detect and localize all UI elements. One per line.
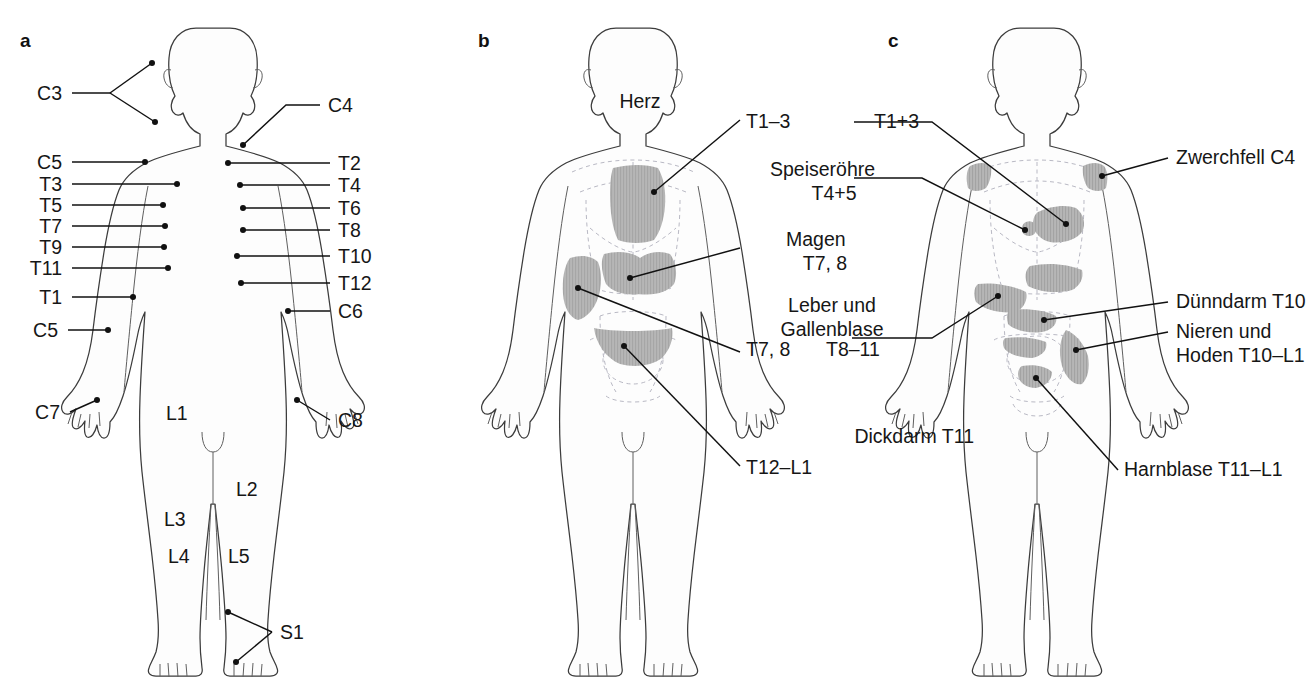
label-duenndarm: Dünndarm T10 xyxy=(1176,290,1306,312)
label-l3: L3 xyxy=(164,508,186,530)
label-t6: T6 xyxy=(338,197,361,219)
label-c3: C3 xyxy=(12,82,62,104)
label-t2: T2 xyxy=(338,152,361,174)
label-t5: T5 xyxy=(12,194,62,216)
label-liver-segment-b: T7, 8 xyxy=(746,338,790,360)
label-harnblase: Harnblase T11–L1 xyxy=(1124,458,1283,480)
label-magen-segment: T7, 8 xyxy=(770,252,880,274)
label-c5-shoulder: C5 xyxy=(12,151,62,173)
label-t11: T11 xyxy=(4,257,62,279)
label-c6: C6 xyxy=(338,300,363,322)
label-t9: T9 xyxy=(12,236,62,258)
label-t8: T8 xyxy=(338,219,361,241)
label-t1: T1 xyxy=(12,286,62,308)
label-magen: Magen xyxy=(786,228,846,250)
label-t7: T7 xyxy=(12,215,62,237)
label-c7: C7 xyxy=(10,401,60,423)
label-speiseroehre: Speiseröhre xyxy=(770,158,875,180)
label-t4: T4 xyxy=(338,174,361,196)
label-c5-arm: C5 xyxy=(8,319,58,341)
label-c8: C8 xyxy=(338,409,363,431)
label-l2: L2 xyxy=(236,478,258,500)
label-colon-segment-b: T12–L1 xyxy=(746,456,812,478)
label-t3: T3 xyxy=(12,173,62,195)
label-dickdarm: Dickdarm T11 xyxy=(730,425,974,447)
label-l4: L5 xyxy=(228,545,250,567)
panel-a-dermatomes: a xyxy=(0,0,440,693)
label-t12: T12 xyxy=(338,272,372,294)
label-heart-segment-b: T1–3 xyxy=(746,110,790,132)
label-l5: L4 xyxy=(168,545,190,567)
label-herz: Herz xyxy=(560,90,720,112)
panel-a-figure xyxy=(0,0,440,693)
label-liver-segment-c: T8–11 xyxy=(826,338,880,360)
panel-c-referred-pain-organs: c xyxy=(870,0,1306,693)
label-s1: S1 xyxy=(280,621,304,643)
label-l1: L1 xyxy=(166,402,188,424)
label-c4: C4 xyxy=(328,94,353,116)
label-heart-segment-c: T1+3 xyxy=(874,110,919,132)
label-zwerchfell: Zwerchfell C4 xyxy=(1176,146,1295,168)
label-nieren-line1: Nieren und xyxy=(1176,320,1271,342)
label-t10: T10 xyxy=(338,245,372,267)
label-nieren-line2: Hoden T10–L1 xyxy=(1176,344,1305,366)
